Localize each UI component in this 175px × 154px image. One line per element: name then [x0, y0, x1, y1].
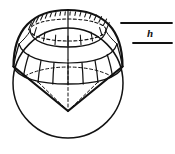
diagram-canvas	[0, 0, 175, 154]
sphere-sector-diagram: h	[0, 0, 175, 154]
h-dimension-label: h	[147, 28, 153, 39]
